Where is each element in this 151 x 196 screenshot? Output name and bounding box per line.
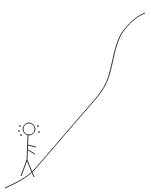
leg-left xyxy=(21,160,27,176)
sweat-drops xyxy=(18,125,40,136)
arm-lower xyxy=(28,150,35,154)
stick-figure xyxy=(21,123,36,177)
comic-panel xyxy=(0,0,151,196)
leg-right xyxy=(27,160,34,177)
body xyxy=(27,135,28,160)
arm-upper xyxy=(28,145,36,147)
head xyxy=(23,123,35,135)
